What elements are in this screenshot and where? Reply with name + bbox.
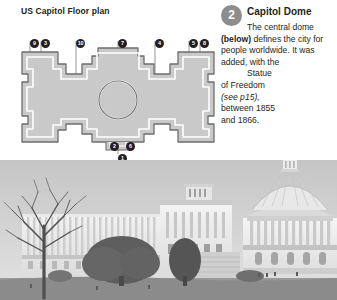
floor-plan-marker-2[interactable]: 2 bbox=[110, 142, 119, 151]
callout-heading: Capitol Dome bbox=[247, 6, 311, 17]
floor-plan-marker-10[interactable]: 10 bbox=[76, 39, 85, 48]
floor-plan-marker-5[interactable]: 5 bbox=[189, 39, 198, 48]
infographic-page: US Capitol Floor plan bbox=[0, 0, 337, 300]
page-title: US Capitol Floor plan bbox=[21, 6, 110, 16]
callout-text-line-5: Statue of Freedom bbox=[221, 68, 272, 90]
floor-plan-marker-4[interactable]: 4 bbox=[155, 39, 164, 48]
floor-plan-marker-9[interactable]: 9 bbox=[30, 39, 39, 48]
callout-text-line-1: The central dome bbox=[247, 22, 314, 32]
floor-plan-marker-3[interactable]: 3 bbox=[41, 39, 50, 48]
callout-text-line-6: between 1855 and 1866. bbox=[221, 103, 275, 125]
callout-body-text: The central dome (below) defines the cit… bbox=[221, 22, 331, 126]
floor-plan-marker-6[interactable]: 6 bbox=[126, 142, 135, 151]
floor-plan-marker-8[interactable]: 8 bbox=[200, 39, 209, 48]
callout-text-wrap: Statue of Freedom (see p15), between 185… bbox=[221, 68, 277, 126]
callout-text-bold: (below) bbox=[221, 34, 251, 44]
capitol-photo bbox=[0, 160, 337, 300]
callout-text-citation: (see p15), bbox=[221, 92, 260, 102]
floor-plan-marker-7[interactable]: 7 bbox=[118, 39, 127, 48]
callout-text-line-2: defines the city bbox=[251, 34, 311, 44]
